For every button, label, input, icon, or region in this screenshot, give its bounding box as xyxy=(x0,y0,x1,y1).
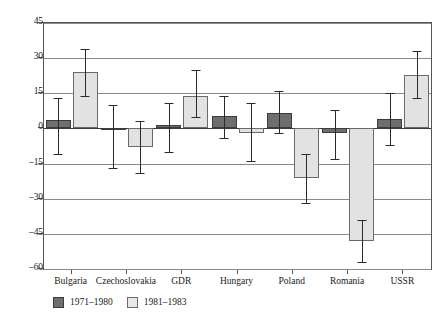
error-bar-cap-upper xyxy=(330,110,339,111)
y-tick-label: 30 xyxy=(9,52,43,62)
x-tick-mark xyxy=(402,270,403,274)
error-bar-cap-lower xyxy=(220,138,229,139)
gridline xyxy=(44,58,431,59)
x-tick-mark xyxy=(71,270,72,274)
error-bar-line xyxy=(335,110,336,159)
error-bar-cap-lower xyxy=(191,117,200,118)
x-tick-label-ussr: USSR xyxy=(390,276,414,287)
y-tick-label: –30 xyxy=(9,193,43,203)
y-tick-label: –60 xyxy=(9,263,43,273)
error-bar-line xyxy=(224,96,225,138)
error-bar-line xyxy=(251,103,252,162)
legend-swatch-icon xyxy=(53,297,64,308)
error-bar-cap-upper xyxy=(109,105,118,106)
x-tick-mark xyxy=(126,270,127,274)
legend-label: 1971–1980 xyxy=(70,297,113,307)
legend-entry-0: 1971–1980 xyxy=(53,297,113,308)
legend-swatch-icon xyxy=(127,297,138,308)
chart-figure: 4530150–15–30–45–60 BulgariaCzechoslovak… xyxy=(0,0,447,319)
error-bar-cap-upper xyxy=(302,154,311,155)
error-bar-cap-upper xyxy=(247,103,256,104)
error-bar-cap-upper xyxy=(385,93,394,94)
error-bar-line xyxy=(196,70,197,117)
y-tick-label: 0 xyxy=(9,122,43,132)
y-tick-label: –45 xyxy=(9,228,43,238)
gridline xyxy=(44,93,431,94)
x-tick-label-hungary: Hungary xyxy=(220,276,253,287)
error-bar-line xyxy=(140,121,141,173)
error-bar-cap-lower xyxy=(247,161,256,162)
error-bar-cap-lower xyxy=(412,98,421,99)
error-bar-cap-lower xyxy=(275,133,284,134)
error-bar-cap-upper xyxy=(54,98,63,99)
x-tick-label-czechoslovakia: Czechoslovakia xyxy=(96,276,156,287)
y-tick-label: 15 xyxy=(9,87,43,97)
x-tick-mark xyxy=(237,270,238,274)
error-bar-line xyxy=(113,105,114,168)
error-bar-cap-lower xyxy=(109,168,118,169)
error-bar-line xyxy=(362,220,363,262)
error-bar-cap-upper xyxy=(81,49,90,50)
x-tick-label-romania: Romania xyxy=(330,276,364,287)
error-bar-line xyxy=(417,51,418,98)
x-tick-mark xyxy=(347,270,348,274)
y-tick-label: 45 xyxy=(9,17,43,27)
x-tick-mark xyxy=(181,270,182,274)
error-bar-line xyxy=(169,103,170,152)
gridline xyxy=(44,23,431,24)
error-bar-line xyxy=(390,93,391,145)
chart-legend: 1971–19801981–1983 xyxy=(43,292,432,312)
y-tick-label: –15 xyxy=(9,158,43,168)
x-tick-label-bulgaria: Bulgaria xyxy=(54,276,87,287)
y-axis: 4530150–15–30–45–60 xyxy=(0,22,43,270)
error-bar-cap-upper xyxy=(275,91,284,92)
x-tick-label-poland: Poland xyxy=(279,276,305,287)
error-bar-cap-upper xyxy=(164,103,173,104)
error-bar-cap-lower xyxy=(385,145,394,146)
legend-entry-1: 1981–1983 xyxy=(127,297,187,308)
error-bar-cap-lower xyxy=(302,203,311,204)
error-bar-cap-upper xyxy=(412,51,421,52)
error-bar-cap-lower xyxy=(330,159,339,160)
error-bar-cap-upper xyxy=(136,121,145,122)
error-bar-cap-upper xyxy=(220,96,229,97)
error-bar-cap-lower xyxy=(54,154,63,155)
error-bar-cap-lower xyxy=(164,152,173,153)
error-bar-cap-upper xyxy=(191,70,200,71)
legend-label: 1981–1983 xyxy=(144,297,187,307)
error-bar-cap-lower xyxy=(81,96,90,97)
x-tick-label-gdr: GDR xyxy=(171,276,191,287)
error-bar-line xyxy=(279,91,280,133)
error-bar-line xyxy=(306,154,307,203)
plot-area xyxy=(43,22,432,270)
x-tick-mark xyxy=(292,270,293,274)
error-bar-line xyxy=(58,98,59,154)
error-bar-cap-upper xyxy=(357,220,366,221)
error-bar-cap-lower xyxy=(357,262,366,263)
x-axis: BulgariaCzechoslovakiaGDRHungaryPolandRo… xyxy=(43,270,432,292)
error-bar-line xyxy=(85,49,86,96)
error-bar-cap-lower xyxy=(136,173,145,174)
